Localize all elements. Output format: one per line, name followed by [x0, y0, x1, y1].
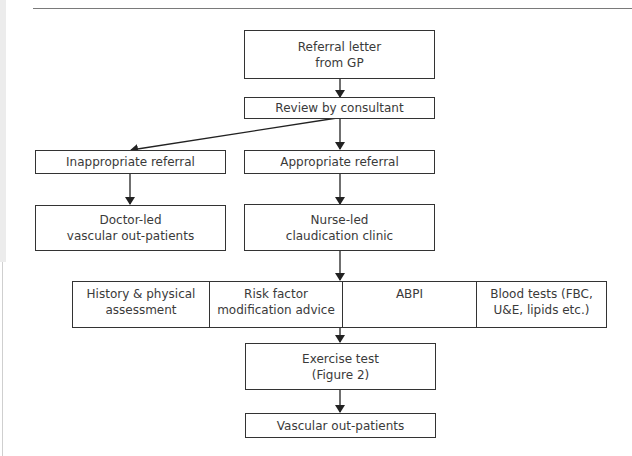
- node-referral-letter: Referral letter from GP: [244, 30, 435, 79]
- node-label: Inappropriate referral: [66, 154, 195, 170]
- node-review: Review by consultant: [244, 97, 435, 119]
- node-vascular-outpatients: Vascular out-patients: [245, 413, 436, 438]
- node-label: Risk factor modification advice: [217, 286, 335, 327]
- node-risk-factor-advice: Risk factor modification advice: [209, 282, 342, 327]
- node-label: Referral letter from GP: [298, 39, 381, 71]
- node-doctor-led: Doctor-led vascular out-patients: [35, 205, 226, 251]
- node-label: Nurse-led claudication clinic: [286, 212, 393, 244]
- node-label: Doctor-led vascular out-patients: [67, 212, 194, 244]
- node-label: Vascular out-patients: [277, 418, 404, 434]
- node-label: Blood tests (FBC, U&E, lipids etc.): [490, 286, 593, 327]
- node-label: History & physical assessment: [87, 286, 196, 327]
- node-history-assessment: History & physical assessment: [73, 282, 209, 327]
- assessment-row: History & physical assessment Risk facto…: [72, 281, 607, 328]
- node-appropriate-referral: Appropriate referral: [244, 150, 435, 174]
- node-label: Appropriate referral: [280, 154, 399, 170]
- node-abpi: ABPI: [342, 282, 476, 327]
- arrow-review-to-inappropriate: [131, 118, 337, 150]
- node-label: Review by consultant: [275, 100, 403, 116]
- node-nurse-led: Nurse-led claudication clinic: [244, 204, 435, 251]
- node-inappropriate-referral: Inappropriate referral: [35, 150, 226, 174]
- node-exercise-test: Exercise test (Figure 2): [245, 343, 436, 390]
- node-blood-tests: Blood tests (FBC, U&E, lipids etc.): [476, 282, 606, 327]
- node-label: ABPI: [396, 286, 423, 327]
- node-label: Exercise test (Figure 2): [302, 351, 379, 383]
